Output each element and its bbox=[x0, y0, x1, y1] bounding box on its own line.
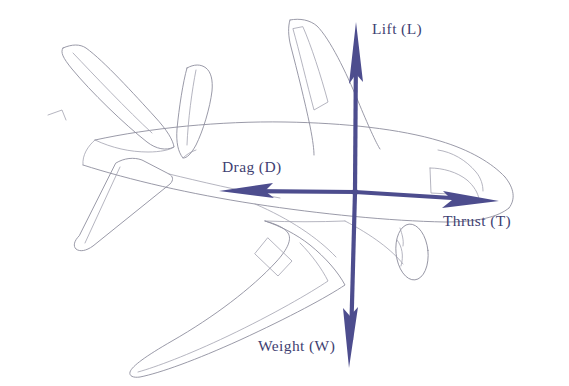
engine-pylon bbox=[400, 228, 403, 246]
vertical-stabilizer bbox=[290, 19, 380, 149]
tail-cone bbox=[83, 140, 95, 165]
fuselage-top-line bbox=[95, 122, 505, 177]
wing-far bbox=[74, 158, 172, 250]
engine-nacelle bbox=[393, 222, 431, 281]
horizontal-stabilizer-near-inner-line bbox=[187, 70, 196, 145]
horizontal-stabilizer-far bbox=[62, 45, 174, 149]
belly-detail-line bbox=[255, 204, 336, 257]
cockpit-window bbox=[438, 150, 483, 191]
wing-far-inner-line bbox=[85, 167, 120, 243]
nose-outline bbox=[505, 177, 513, 208]
weight-label: Weight (W) bbox=[258, 337, 335, 355]
forward-door-panel bbox=[430, 168, 450, 194]
horizontal-stabilizer-far-elevator bbox=[48, 110, 66, 120]
force-vectors-group bbox=[219, 22, 499, 368]
horizontal-stabilizer-far-inner-line bbox=[73, 53, 152, 133]
thrust-label: Thrust (T) bbox=[443, 212, 511, 230]
forces-diagram-figure: Four forces acting on an aircraft in fli… bbox=[0, 0, 569, 386]
weight-arrow[interactable] bbox=[343, 192, 358, 368]
vertical-stabilizer-leading-edge bbox=[289, 20, 314, 155]
aircraft-forces-svg: Four forces acting on an aircraft in fli… bbox=[0, 0, 569, 386]
lift-label: Lift (L) bbox=[372, 20, 422, 38]
drag-arrow[interactable] bbox=[219, 183, 355, 198]
weight-arrow-head bbox=[343, 307, 358, 368]
rudder bbox=[293, 27, 328, 110]
stabilizer-root-fairing bbox=[95, 140, 174, 152]
center-of-gravity-point bbox=[352, 189, 358, 195]
wing-near-aileron bbox=[255, 238, 292, 276]
drag-label: Drag (D) bbox=[222, 158, 282, 176]
wing-near-root-line bbox=[265, 221, 345, 222]
